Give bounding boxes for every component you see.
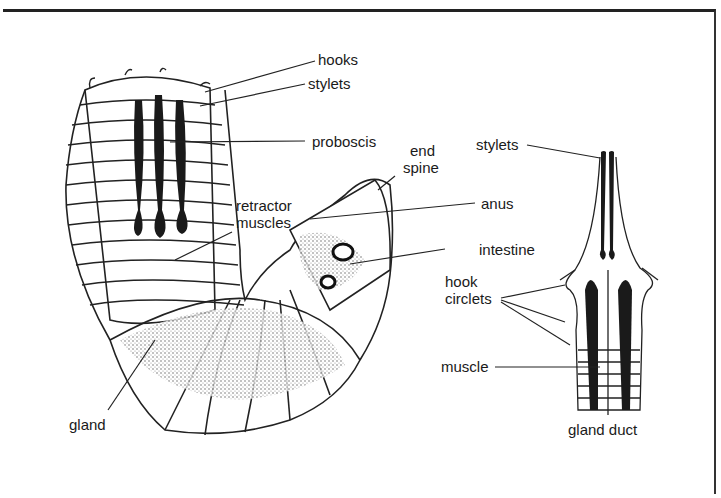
label-end-spine-line1: end: [410, 142, 435, 159]
right-larva-head: [560, 157, 658, 415]
label-retractor-line1: retractor: [236, 197, 292, 214]
label-gland-duct: gland duct: [568, 421, 637, 438]
label-gland: gland: [69, 416, 106, 433]
label-proboscis: proboscis: [312, 133, 376, 150]
label-muscle: muscle: [441, 358, 489, 375]
label-anus: anus: [481, 195, 514, 212]
label-retractor-line2: muscles: [236, 214, 291, 231]
label-hook-circlets-line2: circlets: [445, 290, 492, 307]
label-intestine: intestine: [479, 241, 535, 258]
label-stylets-right: stylets: [476, 136, 519, 153]
label-hooks: hooks: [318, 51, 358, 68]
label-stylets-left: stylets: [308, 75, 351, 92]
label-end-spine-line2: spine: [403, 159, 439, 176]
label-hook-circlets-line1: hook: [445, 273, 478, 290]
